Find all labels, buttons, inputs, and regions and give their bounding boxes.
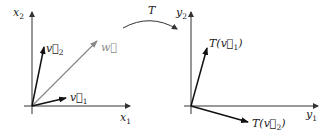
vector-w-label: w⃗ xyxy=(101,41,117,54)
codomain-plane: y2 y1 T(v⃗1) T(v⃗2) xyxy=(175,6,318,132)
y2-axis-label: y2 xyxy=(175,6,187,21)
x2-axis-label: x2 xyxy=(13,6,24,21)
vector-T-v2-label: T(v⃗2) xyxy=(252,117,286,132)
domain-plane: x2 x1 v⃗2 v⃗1 w⃗ xyxy=(13,6,131,126)
x1-axis-label: x1 xyxy=(120,111,131,126)
vector-T-v2 xyxy=(191,106,248,122)
transform-label: T xyxy=(148,4,157,17)
vector-v2-label: v⃗2 xyxy=(46,42,64,57)
vector-T-v1-label: T(v⃗1) xyxy=(209,37,243,52)
y1-axis-label: y1 xyxy=(305,108,317,123)
vector-T-v1 xyxy=(191,48,207,106)
curved-arrow-icon xyxy=(123,21,177,29)
vector-v2 xyxy=(32,47,44,106)
transformation-arrow: T xyxy=(123,4,177,29)
vector-v1 xyxy=(32,98,66,106)
linear-transformation-diagram: x2 x1 v⃗2 v⃗1 w⃗ T y2 y1 T(v⃗1) T(v⃗2) xyxy=(0,0,334,134)
vector-v1-label: v⃗1 xyxy=(70,91,88,106)
